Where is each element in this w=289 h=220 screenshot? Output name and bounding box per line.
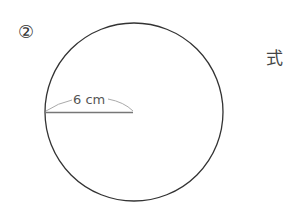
radius-arc-right — [108, 99, 133, 111]
radius-label: 6 cm — [73, 92, 105, 107]
radius-arc-left — [46, 100, 72, 111]
circle-figure: 6 cm — [0, 0, 289, 220]
